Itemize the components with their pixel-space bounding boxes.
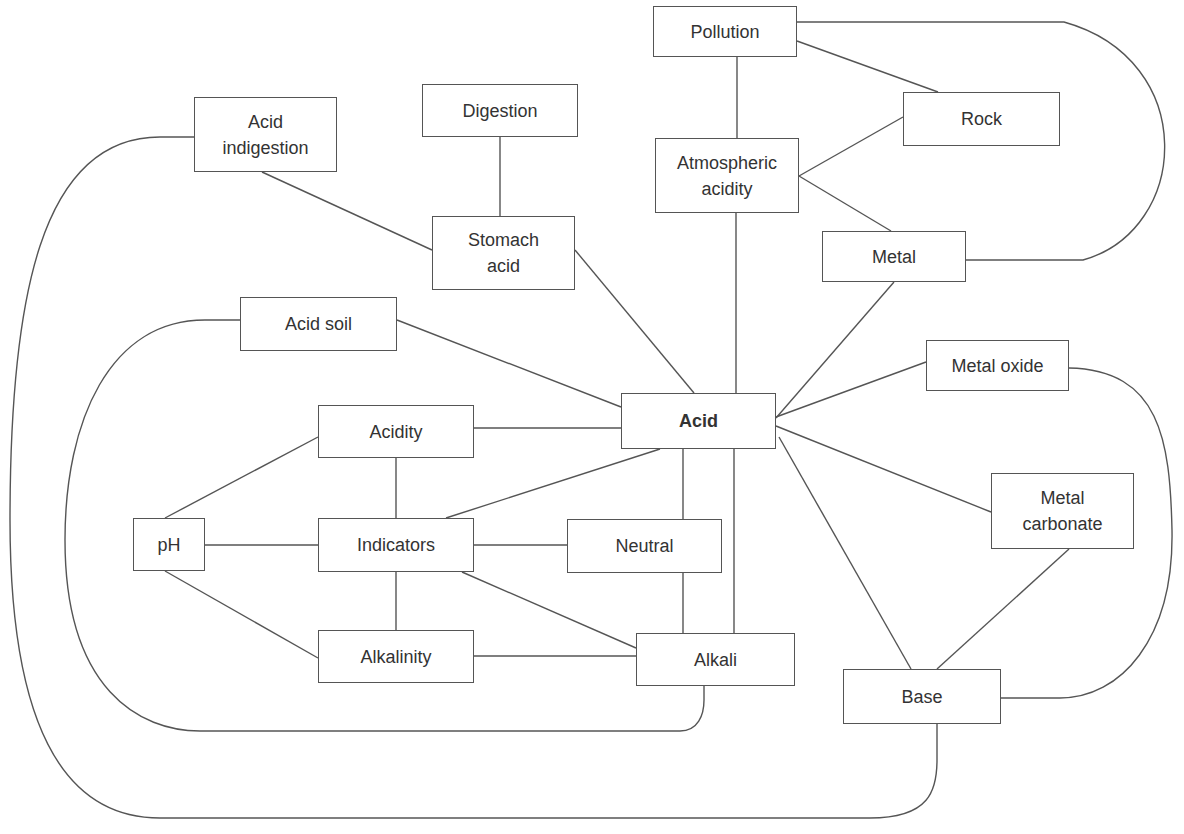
- node-atmospheric-acidity: Atmospheric acidity: [655, 138, 799, 213]
- connector-atmospheric-acidity-rock: [799, 117, 903, 176]
- node-neutral: Neutral: [567, 519, 722, 573]
- node-pollution: Pollution: [653, 6, 797, 57]
- connector-ph-alkalinity: [165, 571, 318, 658]
- connector-atmospheric-acidity-metal: [799, 176, 891, 231]
- connector-acid-soil-acid: [397, 320, 621, 407]
- node-rock: Rock: [903, 92, 1060, 146]
- node-acid: Acid: [621, 393, 776, 449]
- node-alkalinity: Alkalinity: [318, 630, 474, 683]
- concept-map-canvas: PollutionRockAtmospheric acidityMetalMet…: [0, 0, 1184, 834]
- node-acid-indigestion: Acid indigestion: [194, 97, 337, 172]
- node-digestion: Digestion: [422, 84, 578, 137]
- node-metal-oxide: Metal oxide: [926, 340, 1069, 391]
- node-metal-carbonate: Metal carbonate: [991, 473, 1134, 549]
- node-base: Base: [843, 669, 1001, 724]
- connector-acid-metal-carbonate: [776, 426, 991, 512]
- node-stomach-acid: Stomach acid: [432, 216, 575, 290]
- connector-metal-oxide-acid: [776, 362, 926, 417]
- node-ph: pH: [133, 518, 205, 571]
- connector-pollution-rock: [797, 41, 938, 92]
- connector-acid-indigestion-stomach-acid: [262, 172, 432, 250]
- node-acid-soil: Acid soil: [240, 297, 397, 351]
- connector-stomach-acid-acid: [575, 250, 694, 393]
- node-indicators: Indicators: [318, 518, 474, 572]
- node-acidity: Acidity: [318, 405, 474, 458]
- connector-metal-acid: [776, 282, 894, 418]
- connector-indicators-acid: [446, 449, 660, 518]
- connector-indicators-alkali: [462, 572, 636, 648]
- connector-metal-carbonate-base: [937, 549, 1069, 669]
- node-metal: Metal: [822, 231, 966, 282]
- connector-ph-acidity: [165, 437, 318, 518]
- node-alkali: Alkali: [636, 633, 795, 686]
